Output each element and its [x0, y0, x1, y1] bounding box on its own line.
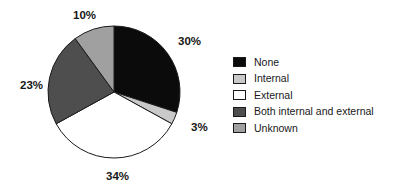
legend-item-label: None — [254, 57, 279, 68]
chart-legend: NoneInternalExternalBoth internal and ex… — [233, 54, 393, 137]
legend-item-label: External — [254, 90, 293, 101]
pie-chart-figure: 30%3%34%23%10% NoneInternalExternalBoth … — [0, 0, 399, 189]
pie-slice-group — [48, 26, 180, 158]
legend-color-swatch — [233, 74, 246, 84]
legend-color-swatch — [233, 107, 246, 117]
legend-color-swatch — [233, 57, 246, 67]
pie-slice-data-label: 34% — [106, 170, 129, 182]
legend-item[interactable]: External — [233, 87, 393, 104]
legend-item-label: Unknown — [254, 123, 298, 134]
legend-item-label: Internal — [254, 73, 289, 84]
pie-slice-data-label: 23% — [20, 79, 43, 91]
legend-color-swatch — [233, 90, 246, 100]
legend-item-label: Both internal and external — [254, 106, 374, 117]
legend-color-swatch — [233, 123, 246, 133]
legend-item[interactable]: None — [233, 54, 393, 71]
pie-slice-data-label: 10% — [73, 9, 96, 21]
pie-slice-data-label: 30% — [178, 35, 201, 47]
legend-item[interactable]: Internal — [233, 71, 393, 88]
legend-item[interactable]: Both internal and external — [233, 104, 393, 121]
legend-item[interactable]: Unknown — [233, 120, 393, 137]
pie-slice-data-label: 3% — [191, 121, 208, 133]
